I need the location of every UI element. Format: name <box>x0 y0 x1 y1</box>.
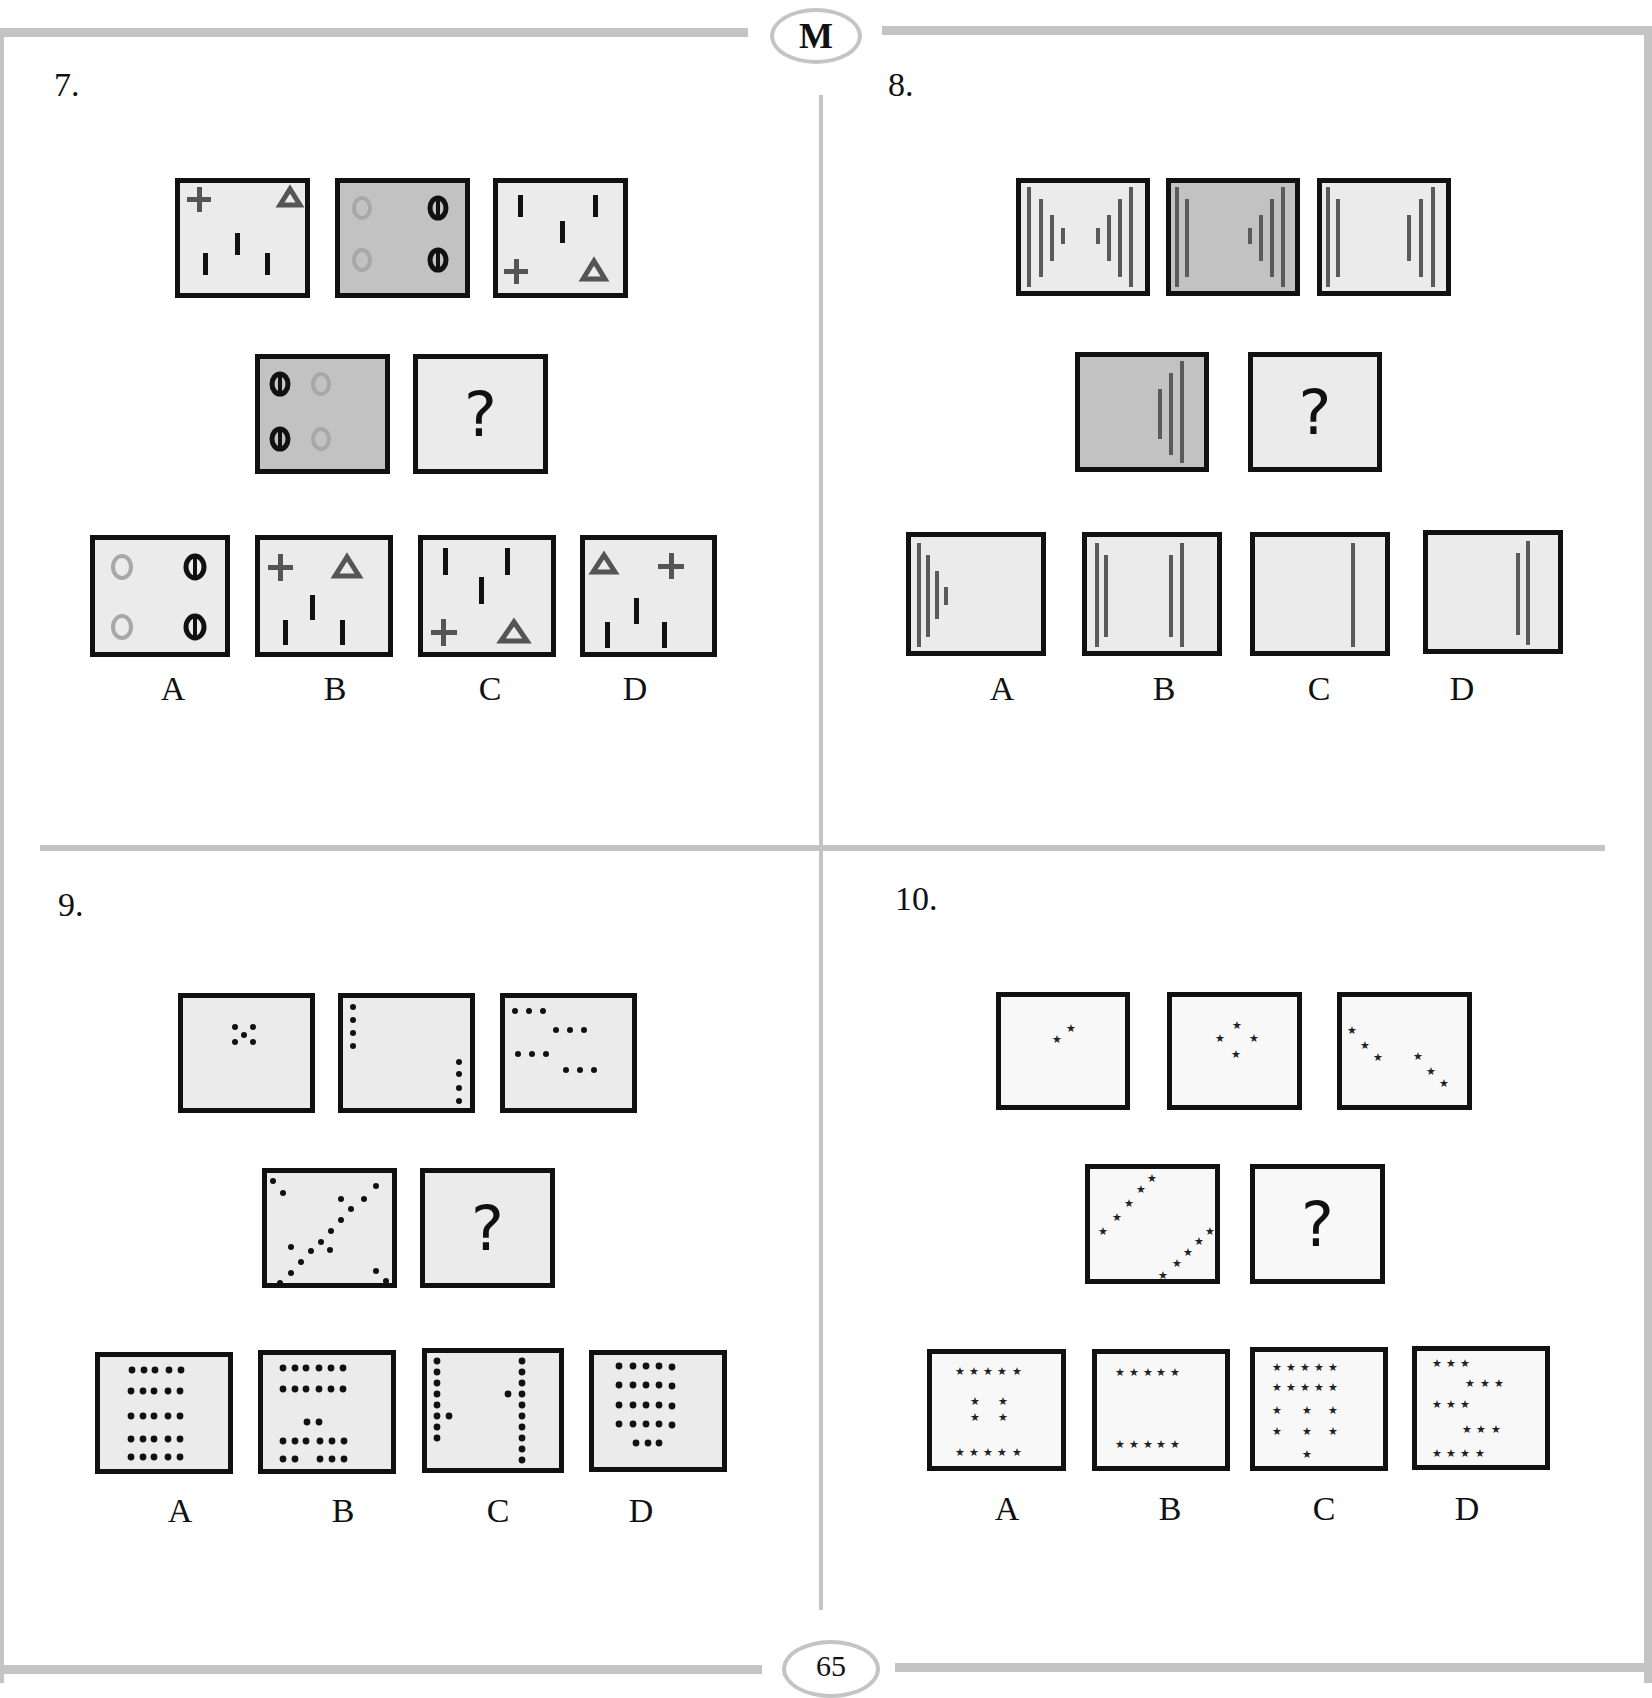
svg-text:★: ★ <box>1129 1366 1139 1379</box>
svg-text:★: ★ <box>997 1365 1007 1378</box>
q9-option-d-box[interactable] <box>589 1350 727 1472</box>
svg-text:★: ★ <box>1446 1447 1456 1460</box>
svg-text:★: ★ <box>1052 1033 1062 1046</box>
q9-option-c-figure <box>427 1353 559 1468</box>
q9-option-d-figure <box>594 1355 722 1467</box>
svg-text:★: ★ <box>1205 1225 1215 1238</box>
q10-cell-4-figure: ★★★★★ ★★★★★ <box>1090 1169 1215 1279</box>
svg-text:★: ★ <box>1302 1448 1312 1461</box>
q7-option-a-label[interactable]: A <box>143 670 203 708</box>
q10-option-a-box[interactable]: ★★★★★ ★★★★ ★★★★★ <box>927 1349 1066 1471</box>
top-rule-left <box>0 28 748 37</box>
q8-cell-2-figure <box>1171 183 1295 291</box>
q9-option-a-figure <box>100 1357 228 1469</box>
svg-text:★: ★ <box>997 1446 1007 1459</box>
q10-option-d-label[interactable]: D <box>1437 1490 1497 1528</box>
question-10-number: 10. <box>895 880 938 918</box>
q9-option-c-box[interactable] <box>422 1348 564 1473</box>
q10-option-d-box[interactable]: ★★★ ★★★ ★★★ ★★★ ★★★★ <box>1412 1346 1550 1470</box>
svg-text:★: ★ <box>1491 1423 1501 1436</box>
svg-text:★: ★ <box>1328 1361 1338 1374</box>
svg-text:★: ★ <box>1183 1246 1193 1259</box>
page-number: 65 <box>816 1649 846 1683</box>
svg-text:★: ★ <box>1249 1032 1259 1045</box>
q7-option-b-box[interactable] <box>255 535 393 657</box>
q9-cell-3 <box>500 993 637 1113</box>
q10-option-d-figure: ★★★ ★★★ ★★★ ★★★ ★★★★ <box>1417 1351 1545 1465</box>
q7-option-d-box[interactable] <box>580 535 717 657</box>
question-mark: ? <box>425 1173 550 1283</box>
q9-option-b-label[interactable]: B <box>313 1492 373 1530</box>
svg-text:★: ★ <box>1136 1183 1146 1196</box>
svg-text:★: ★ <box>1476 1423 1486 1436</box>
svg-text:★: ★ <box>1143 1366 1153 1379</box>
q9-option-a-box[interactable] <box>95 1352 233 1474</box>
q10-option-b-box[interactable]: ★★★★★ ★★★★★ <box>1092 1349 1230 1471</box>
q9-option-b-box[interactable] <box>258 1350 396 1474</box>
q8-option-a-box[interactable] <box>906 532 1046 656</box>
q7-option-c-box[interactable] <box>418 535 556 657</box>
svg-text:★: ★ <box>1286 1361 1296 1374</box>
q8-option-d-box[interactable] <box>1423 530 1563 654</box>
q8-option-c-label[interactable]: C <box>1289 670 1349 708</box>
q10-cell-4: ★★★★★ ★★★★★ <box>1085 1164 1220 1284</box>
q10-option-b-label[interactable]: B <box>1140 1490 1200 1528</box>
svg-text:★: ★ <box>1432 1398 1442 1411</box>
svg-text:★: ★ <box>1302 1425 1312 1438</box>
q7-option-b-label[interactable]: B <box>305 670 365 708</box>
q8-cell-2 <box>1166 178 1300 296</box>
svg-text:★: ★ <box>1272 1381 1282 1394</box>
q9-cell-4 <box>262 1168 397 1288</box>
svg-text:★: ★ <box>970 1395 980 1408</box>
svg-text:★: ★ <box>1300 1381 1310 1394</box>
svg-text:★: ★ <box>1328 1425 1338 1438</box>
q9-option-a-label[interactable]: A <box>150 1492 210 1530</box>
svg-text:★: ★ <box>983 1365 993 1378</box>
q9-option-c-label[interactable]: C <box>468 1492 528 1530</box>
svg-text:★: ★ <box>1328 1404 1338 1417</box>
header-badge: M <box>770 8 862 64</box>
q7-option-a-figure <box>95 540 225 652</box>
question-mark: ? <box>418 359 543 469</box>
q9-option-d-label[interactable]: D <box>611 1492 671 1530</box>
q10-option-a-label[interactable]: A <box>977 1490 1037 1528</box>
q8-option-b-box[interactable] <box>1082 532 1222 656</box>
svg-text:★: ★ <box>955 1365 965 1378</box>
q7-option-a-box[interactable] <box>90 535 230 657</box>
q10-option-a-figure: ★★★★★ ★★★★ ★★★★★ <box>932 1354 1061 1466</box>
svg-text:★: ★ <box>1170 1438 1180 1451</box>
q8-cell-3 <box>1317 178 1451 296</box>
q8-cell-3-figure <box>1322 183 1446 291</box>
page-number-badge: 65 <box>782 1640 880 1698</box>
svg-text:★: ★ <box>1012 1365 1022 1378</box>
svg-text:★: ★ <box>1432 1447 1442 1460</box>
q8-option-c-box[interactable] <box>1250 532 1390 656</box>
q8-option-d-label[interactable]: D <box>1432 670 1492 708</box>
header-badge-letter: M <box>799 15 833 57</box>
svg-text:★: ★ <box>983 1446 993 1459</box>
q7-cell-2 <box>335 178 470 298</box>
svg-text:★: ★ <box>1272 1361 1282 1374</box>
q10-option-c-label[interactable]: C <box>1294 1490 1354 1528</box>
q8-option-a-label[interactable]: A <box>972 670 1032 708</box>
question-mark: ? <box>1255 1169 1380 1279</box>
q8-cell-4 <box>1075 352 1209 472</box>
q7-cell-3-figure <box>498 183 623 293</box>
svg-text:★: ★ <box>1432 1357 1442 1370</box>
q10-cell-2: ★★★★ <box>1167 992 1302 1110</box>
svg-text:★: ★ <box>1115 1366 1125 1379</box>
q8-option-b-label[interactable]: B <box>1134 670 1194 708</box>
q7-option-d-label[interactable]: D <box>605 670 665 708</box>
q7-option-c-label[interactable]: C <box>460 670 520 708</box>
q9-cell-2-figure <box>343 998 470 1108</box>
svg-text:★: ★ <box>1314 1361 1324 1374</box>
q10-option-c-box[interactable]: ★★★★★ ★★★★★ ★★★ ★★★ ★ <box>1250 1347 1388 1471</box>
q9-cell-4-figure <box>267 1173 392 1283</box>
svg-text:★: ★ <box>1446 1398 1456 1411</box>
q8-cell-5: ? <box>1248 352 1382 472</box>
right-edge-rule <box>1644 26 1652 1683</box>
q10-cell-2-figure: ★★★★ <box>1172 997 1297 1105</box>
svg-text:★: ★ <box>1158 1269 1168 1279</box>
svg-text:★: ★ <box>955 1446 965 1459</box>
q7-cell-3 <box>493 178 628 298</box>
